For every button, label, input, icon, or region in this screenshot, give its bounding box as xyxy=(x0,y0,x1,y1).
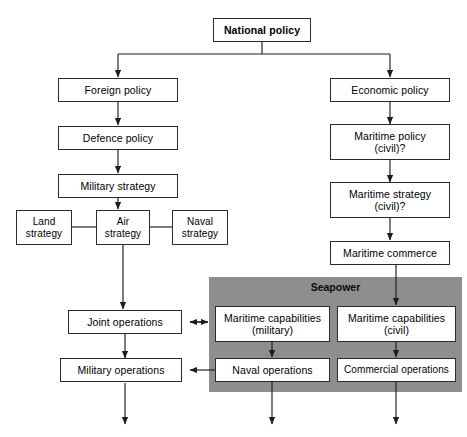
node-joint-operations[interactable]: Joint operations xyxy=(68,310,182,334)
node-maritime-commerce[interactable]: Maritime commerce xyxy=(330,241,450,265)
node-naval-strategy[interactable]: Naval strategy xyxy=(172,210,228,245)
node-foreign-policy[interactable]: Foreign policy xyxy=(58,78,178,102)
node-air-strategy[interactable]: Air strategy xyxy=(96,210,150,245)
node-defence-policy[interactable]: Defence policy xyxy=(58,126,178,150)
node-maritime-strategy-civil[interactable]: Maritime strategy (civil)? xyxy=(330,182,450,218)
node-military-strategy[interactable]: Military strategy xyxy=(58,174,178,198)
node-maritime-policy-civil[interactable]: Maritime policy (civil)? xyxy=(330,124,450,160)
node-naval-operations[interactable]: Naval operations xyxy=(215,358,330,382)
flowchart-diagram: Seapower xyxy=(0,0,467,437)
node-national-policy[interactable]: National policy xyxy=(213,18,311,42)
node-maritime-capabilities-civil[interactable]: Maritime capabilities (civil) xyxy=(337,306,456,342)
node-land-strategy[interactable]: Land strategy xyxy=(16,210,72,245)
node-military-operations[interactable]: Military operations xyxy=(60,358,182,382)
node-maritime-capabilities-military[interactable]: Maritime capabilities (military) xyxy=(215,306,330,342)
node-commercial-operations[interactable]: Commercial operations xyxy=(337,358,456,382)
node-economic-policy[interactable]: Economic policy xyxy=(330,78,450,102)
